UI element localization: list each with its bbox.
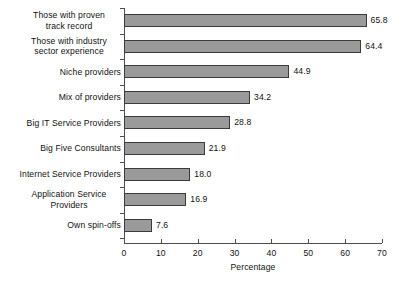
x-axis-tick-label: 70 xyxy=(369,248,395,259)
y-axis-tick xyxy=(120,34,124,35)
x-axis-tick xyxy=(382,239,383,243)
x-axis-tick xyxy=(161,239,162,243)
bar-value-label: 28.8 xyxy=(234,116,251,129)
bar-value-label: 65.8 xyxy=(371,14,388,27)
x-axis-tick-label: 10 xyxy=(148,248,174,259)
bar-value-label: 64.4 xyxy=(365,40,382,53)
x-axis-tick xyxy=(235,239,236,243)
bar xyxy=(124,40,361,53)
y-axis-tick xyxy=(120,162,124,163)
bar xyxy=(124,91,250,104)
x-axis-tick xyxy=(124,239,125,243)
bar xyxy=(124,168,190,181)
category-label: Those with proven track record xyxy=(3,10,121,31)
bar-value-label: 34.2 xyxy=(254,91,271,104)
x-axis-tick-label: 20 xyxy=(185,248,211,259)
x-axis-tick-label: 0 xyxy=(111,248,137,259)
x-axis-line xyxy=(124,243,382,244)
bar xyxy=(124,219,152,232)
y-axis-tick xyxy=(120,136,124,137)
category-label: Own spin-offs xyxy=(3,220,121,230)
x-axis-title: Percentage xyxy=(124,262,382,272)
x-axis-tick-label: 50 xyxy=(295,248,321,259)
category-label: Those with industry sector experience xyxy=(3,36,121,57)
bar xyxy=(124,142,205,155)
bar xyxy=(124,193,186,206)
y-axis-tick xyxy=(120,59,124,60)
x-axis-tick-label: 40 xyxy=(258,248,284,259)
x-axis-tick xyxy=(271,239,272,243)
x-axis-tick-label: 30 xyxy=(222,248,248,259)
y-axis-tick xyxy=(120,110,124,111)
bar xyxy=(124,65,289,78)
bar-value-label: 44.9 xyxy=(293,65,310,78)
bar-value-label: 21.9 xyxy=(209,142,226,155)
y-axis-tick xyxy=(120,8,124,9)
y-axis-tick xyxy=(120,213,124,214)
category-label: Application Service Providers xyxy=(3,189,121,210)
category-label: Mix of providers xyxy=(3,92,121,102)
category-label: Internet Service Providers xyxy=(3,169,121,179)
bar xyxy=(124,116,230,129)
horizontal-bar-chart: Those with proven track recordThose with… xyxy=(0,0,403,288)
y-axis-tick xyxy=(120,187,124,188)
category-label: Big Five Consultants xyxy=(3,143,121,153)
bar-value-label: 16.9 xyxy=(190,193,207,206)
bar xyxy=(124,14,367,27)
x-axis-tick xyxy=(345,239,346,243)
bar-value-label: 7.6 xyxy=(156,219,168,232)
bar-value-label: 18.0 xyxy=(194,168,211,181)
x-axis-tick xyxy=(308,239,309,243)
y-axis-tick xyxy=(120,85,124,86)
category-label: Big IT Service Providers xyxy=(3,118,121,128)
category-label: Niche providers xyxy=(3,67,121,77)
x-axis-tick-label: 60 xyxy=(332,248,358,259)
x-axis-tick xyxy=(198,239,199,243)
plot-area: 65.864.444.934.228.821.918.016.97.601020… xyxy=(124,8,382,243)
category-label-column: Those with proven track recordThose with… xyxy=(0,0,121,244)
